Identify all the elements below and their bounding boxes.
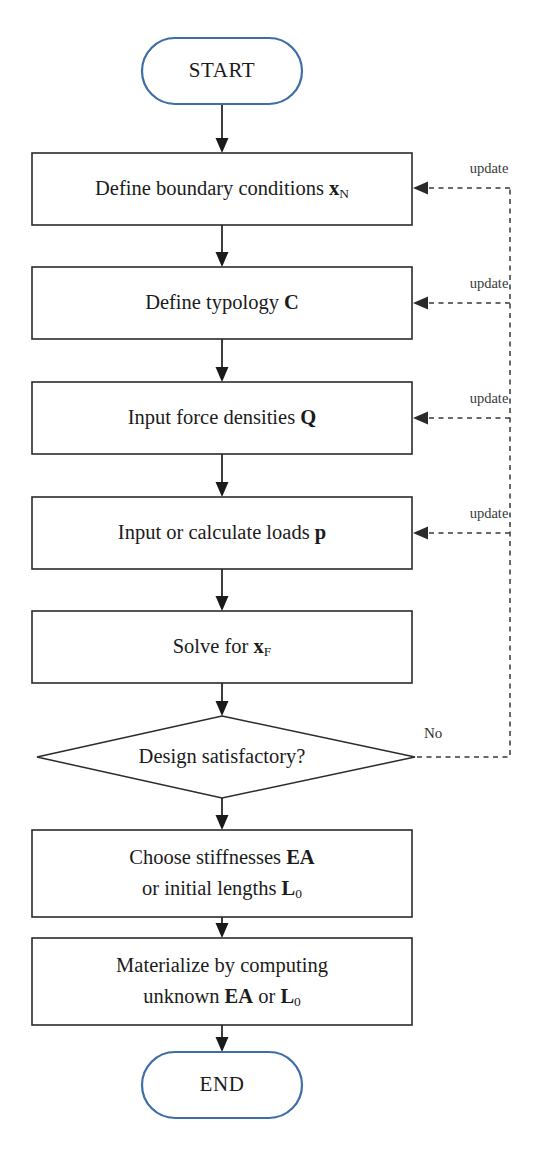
node-solve[interactable]: Solve for xF: [32, 611, 412, 683]
node-loads[interactable]: Input or calculate loads p: [32, 497, 412, 569]
force-densities-text: Input force densities: [128, 406, 301, 429]
materialize-line2-text: unknown: [143, 985, 224, 1007]
connector-start-to-boundary: [216, 104, 229, 153]
stiffness-label-line1: Choose stiffnesses EA: [129, 846, 314, 868]
force-densities-symbol: Q: [300, 406, 316, 428]
feedback-branch-to-typology: [413, 297, 510, 310]
stiffness-shape: [32, 830, 412, 917]
node-decision[interactable]: Design satisfactory?: [37, 716, 415, 798]
materialize-label-line2: unknown EA or L0: [143, 985, 301, 1009]
node-stiffness[interactable]: Choose stiffnesses EA or initial lengths…: [32, 830, 412, 917]
flowchart-canvas: update update update update No START Def…: [0, 0, 543, 1155]
edge-label-no: No: [424, 725, 442, 741]
decision-label: Design satisfactory?: [139, 745, 306, 768]
solve-text: Solve for: [173, 635, 254, 657]
boundary-conditions-text: Define boundary conditions: [95, 177, 329, 200]
materialize-label-line1: Materialize by computing: [116, 954, 328, 977]
materialize-line2-subscript: 0: [294, 994, 301, 1009]
stiffness-line2-text: or initial lengths: [142, 877, 282, 900]
stiffness-label-line2: or initial lengths L0: [142, 877, 302, 901]
force-densities-label: Input force densities Q: [128, 406, 317, 429]
edge-label-update-2: update: [470, 275, 509, 291]
typology-text: Define typology: [145, 291, 284, 314]
connector-force-densities-to-loads: [216, 454, 229, 497]
solve-subscript: F: [264, 644, 272, 659]
stiffness-line1-text: Choose stiffnesses: [129, 846, 286, 868]
loads-label: Input or calculate loads p: [118, 521, 326, 544]
feedback-branch-to-force-densities: [413, 412, 510, 425]
loads-symbol: p: [315, 521, 326, 544]
typology-label: Define typology C: [145, 291, 299, 314]
stiffness-line1-symbol: EA: [286, 846, 315, 868]
node-materialize[interactable]: Materialize by computing unknown EA or L…: [32, 938, 412, 1025]
materialize-line2-middle: or: [253, 985, 280, 1007]
node-start[interactable]: START: [142, 38, 302, 104]
edge-label-update-4: update: [470, 505, 509, 521]
end-label: END: [200, 1072, 245, 1096]
materialize-symbol-ea: EA: [225, 985, 254, 1007]
edge-label-update-3: update: [470, 390, 509, 406]
connector-decision-to-stiffness: [216, 798, 229, 830]
stiffness-line2-subscript: 0: [295, 886, 302, 901]
node-boundary-conditions[interactable]: Define boundary conditions xN: [32, 153, 412, 225]
connector-materialize-to-end: [216, 1025, 229, 1052]
feedback-loop-spine: [417, 188, 510, 757]
solve-label: Solve for xF: [173, 635, 272, 659]
connector-loads-to-solve: [216, 569, 229, 611]
materialize-shape: [32, 938, 412, 1025]
edge-label-update-1: update: [470, 160, 509, 176]
flowchart-svg: update update update update No START Def…: [0, 0, 543, 1155]
materialize-symbol-l: L: [280, 985, 294, 1007]
stiffness-line2-symbol: L: [282, 877, 296, 899]
node-typology[interactable]: Define typology C: [32, 267, 412, 339]
connector-typology-to-force-densities: [216, 339, 229, 382]
node-end[interactable]: END: [142, 1052, 302, 1118]
connector-solve-to-decision: [216, 683, 229, 716]
loads-text: Input or calculate loads: [118, 521, 315, 544]
connector-stiffness-to-materialize: [216, 917, 229, 938]
feedback-branch-to-boundary: [413, 182, 510, 195]
typology-symbol: C: [284, 291, 299, 313]
boundary-conditions-label: Define boundary conditions xN: [95, 177, 349, 201]
start-label: START: [189, 58, 256, 82]
node-force-densities[interactable]: Input force densities Q: [32, 382, 412, 454]
feedback-branch-to-loads: [413, 527, 510, 540]
connector-boundary-to-typology: [216, 225, 229, 267]
boundary-conditions-subscript: N: [339, 186, 349, 201]
